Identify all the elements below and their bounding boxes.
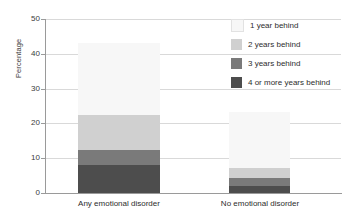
legend-swatch-icon bbox=[231, 58, 242, 69]
legend-item-1-year-behind[interactable]: 1 year behind bbox=[231, 18, 353, 33]
legend-item-2-years-behind[interactable]: 2 years behind bbox=[231, 37, 353, 52]
bar-segment-4-or-more-years-behind[interactable] bbox=[78, 165, 160, 193]
bar-segment-4-or-more-years-behind[interactable] bbox=[229, 186, 290, 193]
y-axis-title: Percentage bbox=[14, 8, 23, 78]
y-tick-label: 10 bbox=[31, 154, 40, 162]
bar-segment-3-years-behind[interactable] bbox=[78, 150, 160, 165]
legend-label: 3 years behind bbox=[248, 60, 300, 68]
y-tick-label: 20 bbox=[31, 119, 40, 127]
y-tick-label: 30 bbox=[31, 85, 40, 93]
x-tick-label-no-emotional-disorder: No emotional disorder bbox=[221, 200, 299, 208]
y-tick-mark bbox=[41, 19, 45, 20]
bar-segment-2-years-behind[interactable] bbox=[229, 168, 290, 178]
y-tick-mark bbox=[41, 158, 45, 159]
bar-segment-2-years-behind[interactable] bbox=[78, 115, 160, 150]
legend-label: 1 year behind bbox=[250, 22, 298, 30]
legend-swatch-icon bbox=[231, 19, 244, 32]
y-tick-mark bbox=[41, 89, 45, 90]
bar-segment-1-year-behind[interactable] bbox=[229, 112, 290, 168]
bar-group[interactable] bbox=[229, 112, 290, 193]
bar-segment-1-year-behind[interactable] bbox=[78, 43, 160, 115]
x-axis-line bbox=[45, 193, 342, 194]
legend-label: 2 years behind bbox=[248, 41, 300, 49]
y-tick-mark bbox=[41, 123, 45, 124]
legend-item-4-or-more-years-behind[interactable]: 4 or more years behind bbox=[231, 75, 353, 90]
bar-segment-3-years-behind[interactable] bbox=[229, 178, 290, 186]
legend-swatch-icon bbox=[231, 39, 242, 50]
x-tick-label-any-emotional-disorder: Any emotional disorder bbox=[78, 200, 160, 208]
y-tick-mark bbox=[41, 193, 45, 194]
legend-item-3-years-behind[interactable]: 3 years behind bbox=[231, 56, 353, 71]
stacked-bar-chart: 50 40 30 20 10 0 Percentage Any emotiona… bbox=[0, 0, 356, 224]
y-tick-label: 50 bbox=[31, 15, 40, 23]
y-tick-mark bbox=[41, 54, 45, 55]
bar-group[interactable] bbox=[78, 43, 160, 193]
legend-label: 4 or more years behind bbox=[248, 79, 330, 87]
y-tick-label: 0 bbox=[36, 189, 40, 197]
legend: 1 year behind 2 years behind 3 years beh… bbox=[231, 18, 353, 94]
legend-swatch-icon bbox=[231, 77, 242, 88]
y-tick-label: 40 bbox=[31, 50, 40, 58]
y-axis-line bbox=[45, 19, 46, 194]
